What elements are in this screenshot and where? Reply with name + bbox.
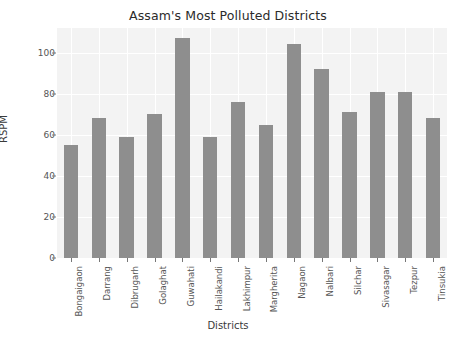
x-axis-label: Districts	[0, 320, 456, 331]
x-tick-mark	[433, 258, 434, 262]
x-tick-label: Sivasagar	[381, 266, 391, 308]
x-tick-mark	[405, 258, 406, 262]
x-tick-label: Golaghat	[158, 266, 168, 305]
x-tick-label: Bongaigaon	[74, 266, 84, 317]
x-tick-mark	[127, 258, 128, 262]
x-tick-mark	[322, 258, 323, 262]
x-tick-mark	[350, 258, 351, 262]
y-tick-mark	[52, 258, 56, 259]
y-tick-mark	[52, 175, 56, 176]
x-tick-mark	[182, 258, 183, 262]
x-tick-mark	[294, 258, 295, 262]
axes-ticks-layer: 020406080100 BongaigaonDarrangDibrugarhG…	[0, 0, 456, 340]
x-tick-label: Nagaon	[297, 266, 307, 299]
x-tick-label: Nalbari	[325, 266, 335, 296]
chart-figure: Assam's Most Polluted Districts 02040608…	[0, 0, 456, 340]
y-tick-mark	[52, 216, 56, 217]
x-tick-mark	[210, 258, 211, 262]
x-tick-mark	[99, 258, 100, 262]
x-tick-label: Tinsukia	[437, 266, 447, 301]
x-tick-mark	[266, 258, 267, 262]
x-tick-label: Tezpur	[409, 266, 419, 294]
y-tick-mark	[52, 134, 56, 135]
x-tick-mark	[238, 258, 239, 262]
y-tick-mark	[52, 93, 56, 94]
x-tick-label: Silchar	[353, 266, 363, 295]
x-tick-mark	[71, 258, 72, 262]
x-tick-label: Lakhimpur	[242, 266, 252, 311]
x-tick-label: Margherita	[269, 266, 279, 312]
y-axis-label: RSPM	[0, 115, 9, 143]
x-tick-mark	[155, 258, 156, 262]
x-tick-label: Hailakandi	[214, 266, 224, 311]
x-tick-label: Dibrugarh	[130, 266, 140, 309]
y-tick-mark	[52, 52, 56, 53]
x-tick-label: Darrang	[102, 266, 112, 301]
x-tick-label: Guwahati	[186, 266, 196, 306]
x-tick-mark	[377, 258, 378, 262]
